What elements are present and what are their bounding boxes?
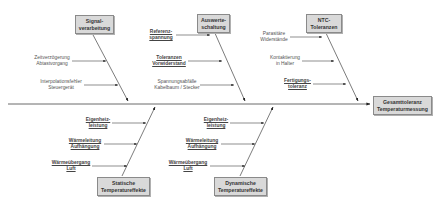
cause-parasitaere-widerstaende: ParasitäreWiderstände xyxy=(258,31,290,43)
cause-statisch-waermeleitung: WärmeleitungAufhängung xyxy=(66,138,104,150)
cause-line2: Aufhängung xyxy=(66,144,104,150)
cause-line2: in Halter xyxy=(268,61,302,67)
category-label-line2: schaltung xyxy=(201,24,226,30)
category-box-dynamische-temperatureffekte: DynamischeTemperatureffekte xyxy=(214,177,267,196)
effect-label-line2: Temperaturmessung xyxy=(377,106,428,112)
cause-kontaktierung: Kontaktierungin Halter xyxy=(268,55,302,67)
category-label-line2: Temperatureffekte xyxy=(101,187,146,193)
cause-line2: Aufhängung xyxy=(183,144,221,150)
category-label-line2: Temperatureffekte xyxy=(218,187,263,193)
category-box-ntc-toleranzen: NTC-Toleranzen xyxy=(306,14,342,33)
cause-line2: Widerstände xyxy=(258,37,290,43)
cause-line2: Kabelbaum / Stecker xyxy=(154,85,200,91)
cause-statisch-waermeuebergang: WärmeübergangLuft xyxy=(50,160,92,172)
cause-dynamisch-waermeuebergang: WärmeübergangLuft xyxy=(166,160,210,172)
cause-line2: leistung xyxy=(202,123,230,129)
cause-line2: Luft xyxy=(50,166,92,172)
cause-line2: Abtastvorgang xyxy=(32,61,72,67)
effect-label-line1: Gesamttoleranz xyxy=(377,99,428,105)
cause-line2: spannung xyxy=(146,35,176,41)
cause-dynamisch-waermeleitung: WärmeleitungAufhängung xyxy=(183,138,221,150)
cause-line2: Vorwiderstand xyxy=(150,61,188,67)
category-box-signalverarbeitung: Signal-verarbeitung xyxy=(75,15,114,34)
category-label-line2: Toleranzen xyxy=(311,24,338,30)
cause-zeitverzoegerung: ZeitverzögerungAbtastvorgang xyxy=(32,55,72,67)
cause-fertigungstoleranz: Fertigungs-toleranz xyxy=(282,78,313,90)
category-box-statische-temperatureffekte: StatischeTemperatureffekte xyxy=(97,177,150,196)
effect-box-gesamttoleranz: GesamttoleranzTemperaturmessung xyxy=(373,96,432,115)
cause-line2: Steuergerät xyxy=(38,85,84,91)
cause-interpolationsfehler: InterpolationsfehlerSteuergerät xyxy=(38,79,84,91)
cause-spannungsabfaelle: SpannungsabfälleKabelbaum / Stecker xyxy=(154,79,200,91)
cause-referenzspannung: Referenz-spannung xyxy=(146,29,176,41)
cause-line2: toleranz xyxy=(282,84,313,90)
category-box-auswerteschaltung: Auswerte-schaltung xyxy=(197,14,230,33)
cause-toleranzen-vorwiderstand: ToleranzenVorwiderstand xyxy=(150,55,188,67)
category-label-line1: Auswerte- xyxy=(201,17,226,23)
cause-statisch-eigenheizleistung: Eigenheiz-leistung xyxy=(84,117,112,129)
cause-dynamisch-eigenheizleistung: Eigenheiz-leistung xyxy=(202,117,230,129)
cause-line2: Luft xyxy=(166,166,210,172)
category-label-line2: verarbeitung xyxy=(79,25,110,31)
cause-line2: leistung xyxy=(84,123,112,129)
